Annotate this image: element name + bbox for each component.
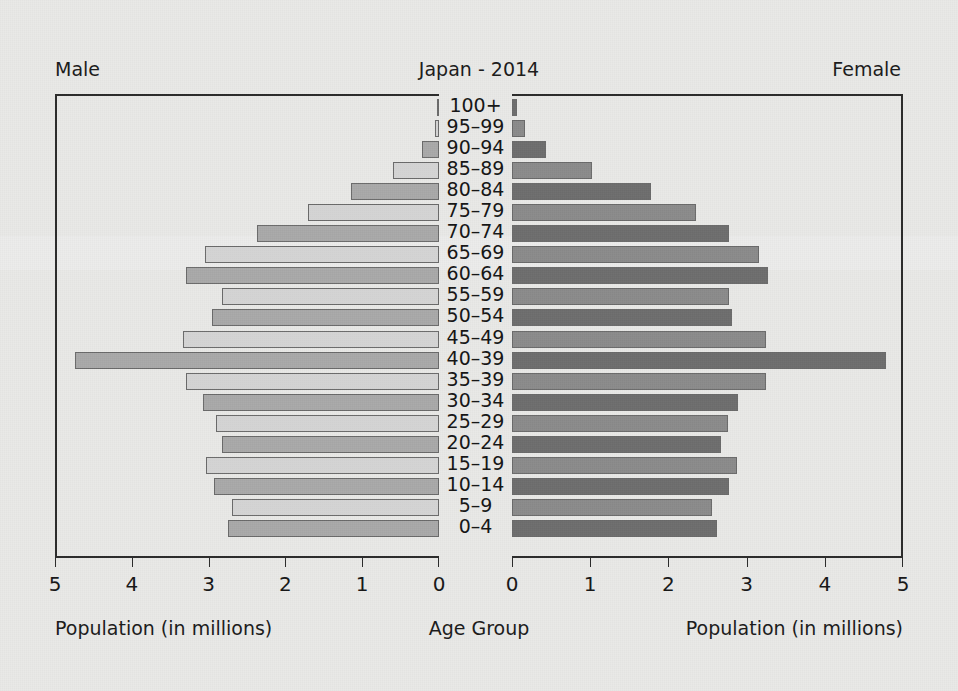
- bar-male-10–14[interactable]: [214, 478, 439, 495]
- bar-row: [512, 350, 901, 371]
- bar-male-75–79[interactable]: [308, 204, 439, 221]
- bar-male-90–94[interactable]: [422, 141, 439, 158]
- bar-row: [57, 265, 439, 286]
- tick-male-5: [55, 558, 56, 567]
- bar-row: [512, 497, 901, 518]
- age-group-label-90–94: 90–94: [439, 137, 512, 158]
- bar-male-85–89[interactable]: [393, 162, 439, 179]
- bar-female-90–94[interactable]: [512, 141, 546, 158]
- bar-female-0–4[interactable]: [512, 520, 717, 537]
- bar-row: [512, 160, 901, 181]
- age-group-label-45–49: 45–49: [439, 327, 512, 348]
- bar-row: [57, 350, 439, 371]
- bar-row: [57, 139, 439, 160]
- bar-female-30–34[interactable]: [512, 394, 738, 411]
- bar-female-10–14[interactable]: [512, 478, 729, 495]
- age-group-label-55–59: 55–59: [439, 284, 512, 305]
- bar-row: [57, 518, 439, 539]
- tick-label-female-2: 2: [662, 572, 675, 596]
- bar-female-5–9[interactable]: [512, 499, 712, 516]
- bar-row: [512, 307, 901, 328]
- bar-row: [57, 476, 439, 497]
- bar-female-25–29[interactable]: [512, 415, 728, 432]
- bar-female-50–54[interactable]: [512, 309, 732, 326]
- age-group-label-85–89: 85–89: [439, 158, 512, 179]
- bar-row: [512, 265, 901, 286]
- bar-row: [57, 392, 439, 413]
- age-group-label-10–14: 10–14: [439, 474, 512, 495]
- age-group-label-80–84: 80–84: [439, 179, 512, 200]
- chart-title: Japan - 2014: [0, 58, 958, 80]
- bar-female-60–64[interactable]: [512, 267, 768, 284]
- tick-label-male-3: 3: [202, 572, 215, 596]
- age-group-label-0–4: 0–4: [439, 516, 512, 537]
- bar-row: [512, 223, 901, 244]
- tick-female-1: [590, 558, 591, 567]
- bar-row: [512, 392, 901, 413]
- bar-male-80–84[interactable]: [351, 183, 439, 200]
- male-plot-area: [55, 94, 439, 558]
- bar-male-45–49[interactable]: [183, 331, 439, 348]
- age-group-label-25–29: 25–29: [439, 411, 512, 432]
- bar-row: [57, 118, 439, 139]
- tick-label-male-4: 4: [125, 572, 138, 596]
- bar-female-95–99[interactable]: [512, 120, 525, 137]
- bar-male-15–19[interactable]: [206, 457, 439, 474]
- bar-male-20–24[interactable]: [222, 436, 439, 453]
- tick-male-2: [285, 558, 286, 567]
- tick-label-female-5: 5: [897, 572, 910, 596]
- bar-male-5–9[interactable]: [232, 499, 439, 516]
- bar-row: [512, 118, 901, 139]
- bar-female-40–39[interactable]: [512, 352, 886, 369]
- female-axis-caption: Population (in millions): [686, 617, 903, 639]
- bar-row: [512, 434, 901, 455]
- age-group-label-5–9: 5–9: [439, 495, 512, 516]
- bar-row: [512, 413, 901, 434]
- age-group-label-50–54: 50–54: [439, 305, 512, 326]
- age-group-label-65–69: 65–69: [439, 242, 512, 263]
- bar-row: [512, 202, 901, 223]
- bar-male-50–54[interactable]: [212, 309, 439, 326]
- male-x-axis: 543210: [55, 558, 439, 610]
- bar-row: [57, 455, 439, 476]
- bar-female-75–79[interactable]: [512, 204, 696, 221]
- bar-female-100+[interactable]: [512, 99, 517, 116]
- tick-female-0: [512, 558, 513, 567]
- bar-row: [57, 97, 439, 118]
- bar-row: [512, 371, 901, 392]
- bar-female-35–39[interactable]: [512, 373, 766, 390]
- bar-row: [512, 181, 901, 202]
- female-plot-area: [512, 94, 903, 558]
- bar-male-0–4[interactable]: [228, 520, 439, 537]
- bar-row: [57, 434, 439, 455]
- bar-row: [57, 181, 439, 202]
- bar-female-55–59[interactable]: [512, 288, 729, 305]
- bar-female-85–89[interactable]: [512, 162, 592, 179]
- bar-male-35–39[interactable]: [186, 373, 439, 390]
- tick-label-female-1: 1: [584, 572, 597, 596]
- tick-label-male-0: 0: [433, 572, 446, 596]
- bar-row: [512, 139, 901, 160]
- bar-female-45–49[interactable]: [512, 331, 766, 348]
- bar-row: [512, 455, 901, 476]
- female-bar-group: [512, 96, 901, 556]
- bar-female-65–69[interactable]: [512, 246, 759, 263]
- bar-male-70–74[interactable]: [257, 225, 439, 242]
- bar-male-40–39[interactable]: [75, 352, 439, 369]
- bar-female-70–74[interactable]: [512, 225, 729, 242]
- bar-male-65–69[interactable]: [205, 246, 439, 263]
- age-group-label-30–34: 30–34: [439, 390, 512, 411]
- bar-male-55–59[interactable]: [222, 288, 439, 305]
- bar-male-30–34[interactable]: [203, 394, 439, 411]
- bar-row: [57, 286, 439, 307]
- bar-row: [57, 371, 439, 392]
- age-group-label-20–24: 20–24: [439, 432, 512, 453]
- bar-male-60–64[interactable]: [186, 267, 439, 284]
- bar-row: [512, 518, 901, 539]
- bar-female-20–24[interactable]: [512, 436, 721, 453]
- bar-female-15–19[interactable]: [512, 457, 737, 474]
- bar-female-80–84[interactable]: [512, 183, 651, 200]
- bar-row: [512, 329, 901, 350]
- bar-male-25–29[interactable]: [216, 415, 439, 432]
- tick-female-3: [747, 558, 748, 567]
